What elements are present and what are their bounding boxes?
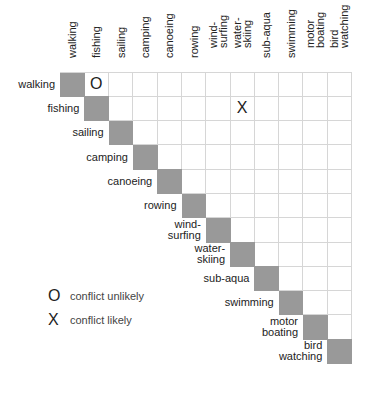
matrix-cell (182, 169, 207, 194)
diagonal-cell (84, 96, 109, 121)
matrix-cell (279, 169, 304, 194)
column-header-label: sub-aqua (261, 12, 271, 58)
row-header: walking (18, 79, 55, 90)
matrix-cell (303, 266, 328, 291)
diagonal-cell (109, 121, 134, 146)
matrix-cell (182, 145, 207, 170)
matrix-cell (182, 96, 207, 121)
matrix-cell (133, 96, 158, 121)
matrix-cell (303, 145, 328, 170)
matrix-cell (303, 96, 328, 121)
matrix-cell (327, 72, 352, 97)
diagonal-cell (327, 339, 352, 364)
matrix-cell (279, 194, 304, 219)
matrix-cell (133, 121, 158, 146)
column-header: water- skiing (230, 0, 254, 68)
legend-unlikely: O conflict unlikely (48, 287, 144, 305)
row-header: wind- surfing (168, 219, 201, 241)
matrix-cell (230, 218, 255, 243)
matrix-cell (254, 72, 279, 97)
diagonal-cell (230, 242, 255, 267)
legend-label: conflict unlikely (70, 290, 144, 302)
legend-likely: X conflict likely (48, 311, 132, 329)
row-header: canoeing (108, 176, 153, 187)
matrix-cell (206, 96, 231, 121)
matrix-cell (206, 194, 231, 219)
column-header-label: walking (67, 21, 77, 58)
matrix-cell (279, 121, 304, 146)
matrix-cell (230, 194, 255, 219)
column-header-label: swimming (286, 9, 296, 58)
matrix-cell (303, 72, 328, 97)
matrix-cell (230, 145, 255, 170)
matrix-cell (279, 72, 304, 97)
matrix-cell (327, 218, 352, 243)
matrix-cell (279, 218, 304, 243)
diagonal-cell (60, 72, 85, 97)
row-header: water- skiing (195, 243, 226, 265)
matrix-cell (279, 242, 304, 267)
column-header: sub-aqua (254, 0, 278, 68)
matrix-cell: X (230, 96, 255, 121)
column-header-label: bird watching (329, 5, 349, 48)
cross-symbol: X (48, 311, 70, 329)
column-header-label: rowing (189, 26, 199, 58)
column-header-label: sailing (116, 27, 126, 58)
matrix-cell (303, 242, 328, 267)
matrix-cell (279, 96, 304, 121)
row-header: fishing (48, 103, 80, 114)
matrix-cell (230, 72, 255, 97)
matrix-cell (254, 218, 279, 243)
column-header-label: motor boating (305, 12, 325, 48)
matrix-cell (182, 121, 207, 146)
matrix-cell (254, 121, 279, 146)
column-header: wind- surfing (206, 0, 230, 68)
matrix-cell (303, 218, 328, 243)
row-header: sub-aqua (204, 273, 250, 284)
row-header: motor boating (262, 316, 298, 338)
matrix-cell (279, 145, 304, 170)
matrix-cell (303, 169, 328, 194)
matrix-cell (230, 121, 255, 146)
circle-symbol: O (48, 287, 70, 305)
matrix-cell (157, 145, 182, 170)
matrix-cell (303, 194, 328, 219)
matrix-cell (206, 121, 231, 146)
diagonal-cell (206, 218, 231, 243)
matrix-cell (206, 72, 231, 97)
row-header: bird watching (279, 340, 322, 362)
matrix-cell (327, 96, 352, 121)
column-header-label: camping (140, 16, 150, 58)
column-header-label: water- skiing (232, 17, 252, 48)
matrix-cell (206, 145, 231, 170)
diagonal-cell (303, 315, 328, 340)
matrix-cell (254, 169, 279, 194)
matrix-cell: O (84, 72, 109, 97)
matrix-cell (327, 242, 352, 267)
matrix-cell (327, 169, 352, 194)
matrix-cell (206, 169, 231, 194)
row-header: sailing (72, 127, 103, 138)
matrix-cell (254, 242, 279, 267)
matrix-cell (254, 96, 279, 121)
matrix-cell (109, 72, 134, 97)
column-header: swimming (279, 0, 303, 68)
column-header-label: wind- surfing (208, 15, 228, 48)
column-header: camping (133, 0, 157, 68)
matrix-cell (133, 72, 158, 97)
column-header: canoeing (157, 0, 181, 68)
column-header: bird watching (327, 0, 351, 68)
column-header: fishing (84, 0, 108, 68)
matrix-cell (254, 194, 279, 219)
diagonal-cell (279, 291, 304, 316)
row-header: camping (86, 152, 128, 163)
column-header: motor boating (303, 0, 327, 68)
matrix-cell (327, 291, 352, 316)
matrix-cell (303, 121, 328, 146)
matrix-cell (303, 291, 328, 316)
matrix-cell (254, 145, 279, 170)
diagonal-cell (254, 266, 279, 291)
diagonal-cell (133, 145, 158, 170)
matrix-cell (327, 315, 352, 340)
matrix-cell (157, 121, 182, 146)
